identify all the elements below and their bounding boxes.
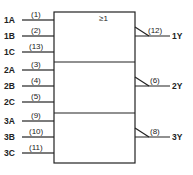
input-label: 2B: [4, 81, 15, 91]
input-pin: (10): [29, 127, 44, 136]
input-label: 2A: [4, 65, 15, 75]
input-pin: (4): [31, 76, 41, 85]
gate-box: [54, 12, 135, 163]
output-pin: (12): [148, 26, 163, 35]
gate-symbol: ≥1: [99, 14, 108, 23]
input-label: 3B: [4, 132, 15, 142]
input-pin: (2): [31, 26, 41, 35]
input-pin: (3): [31, 60, 41, 69]
output-label: 1Y: [172, 31, 183, 41]
input-label: 3A: [4, 116, 15, 126]
input-label: 1C: [4, 47, 15, 57]
output-label: 2Y: [172, 81, 183, 91]
input-pin: (13): [29, 42, 44, 51]
output-label: 3Y: [172, 132, 183, 142]
logic-diagram: ≥1 1A 1B 1C 2A 2B 2C 3A 3B 3C (1) (2) (1…: [0, 0, 193, 175]
input-label: 1A: [4, 15, 15, 25]
output-pin: (6): [150, 76, 160, 85]
input-label: 3C: [4, 148, 15, 158]
input-pin: (9): [31, 111, 41, 120]
input-pin: (1): [31, 10, 41, 19]
input-pin: (11): [29, 143, 43, 152]
input-pin: (5): [31, 92, 41, 101]
input-label: 2C: [4, 97, 15, 107]
output-pin: (8): [150, 127, 160, 136]
input-label: 1B: [4, 31, 15, 41]
